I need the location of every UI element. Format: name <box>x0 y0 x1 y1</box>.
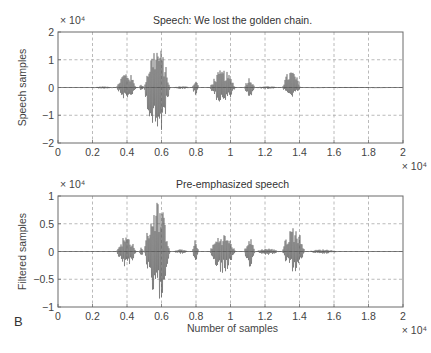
x-tick-label: 1.6 <box>327 310 342 322</box>
x-tick-label: 0 <box>55 310 61 322</box>
x-tick-label: 1.2 <box>258 146 273 158</box>
y-tick-label: 1 <box>48 54 54 66</box>
x-tick-label: 0.2 <box>85 146 100 158</box>
y-tick-label: 1 <box>48 190 54 202</box>
x-tick-label: 0.6 <box>154 146 169 158</box>
y-tick-label: 0.5 <box>39 218 54 230</box>
x-multiplier-label: × 10⁴ <box>402 324 427 336</box>
x-multiplier-label: × 10⁴ <box>402 160 427 172</box>
x-tick-label: 1.6 <box>327 146 342 158</box>
y-tick-label: −1 <box>42 109 54 121</box>
x-tick-label: 1.2 <box>258 310 273 322</box>
y-axis-label: Speech samples <box>16 49 28 127</box>
y-tick-label: 0 <box>48 246 54 258</box>
y-tick-label: 2 <box>48 26 54 38</box>
x-tick-label: 0.2 <box>85 310 100 322</box>
speech-plot: 00.20.40.60.811.21.41.61.82−2−1012 Speec… <box>16 14 427 172</box>
y-axis-label: Filtered samples <box>16 213 28 290</box>
x-tick-label: 1.8 <box>361 146 376 158</box>
waveform-line <box>58 51 403 130</box>
x-tick-label: 0.8 <box>189 146 204 158</box>
x-tick-label: 0.6 <box>154 310 169 322</box>
y-tick-label: −2 <box>42 137 54 149</box>
waveform <box>58 51 403 130</box>
y-multiplier-label: × 10⁴ <box>60 178 85 190</box>
x-axis-label: Number of samples <box>187 322 278 334</box>
x-tick-label: 1 <box>228 310 234 322</box>
y-multiplier-label: × 10⁴ <box>60 14 85 26</box>
x-tick-label: 0.4 <box>120 146 135 158</box>
x-tick-label: 1.4 <box>292 146 307 158</box>
chart-title: Pre-emphasized speech <box>176 178 289 190</box>
y-tick-label: 0 <box>48 82 54 94</box>
y-tick-label: −0.5 <box>33 273 54 285</box>
x-tick-label: 0 <box>55 146 61 158</box>
chart-title: Speech: We lost the golden chain. <box>153 14 312 26</box>
speech-figure: 00.20.40.60.811.21.41.61.82−2−1012 Speec… <box>0 0 431 353</box>
panel-label: B <box>14 314 23 329</box>
x-tick-label: 2 <box>400 310 406 322</box>
y-tick-label: −1 <box>42 301 54 313</box>
pre-emphasized-plot: 00.20.40.60.811.21.41.61.82−1−0.500.51 P… <box>16 178 427 336</box>
tick-labels: 00.20.40.60.811.21.41.61.82−2−1012 <box>42 26 406 158</box>
x-tick-label: 1 <box>228 146 234 158</box>
x-tick-label: 2 <box>400 146 406 158</box>
x-tick-label: 1.4 <box>292 310 307 322</box>
x-tick-label: 0.8 <box>189 310 204 322</box>
x-tick-label: 1.8 <box>361 310 376 322</box>
x-tick-label: 0.4 <box>120 310 135 322</box>
